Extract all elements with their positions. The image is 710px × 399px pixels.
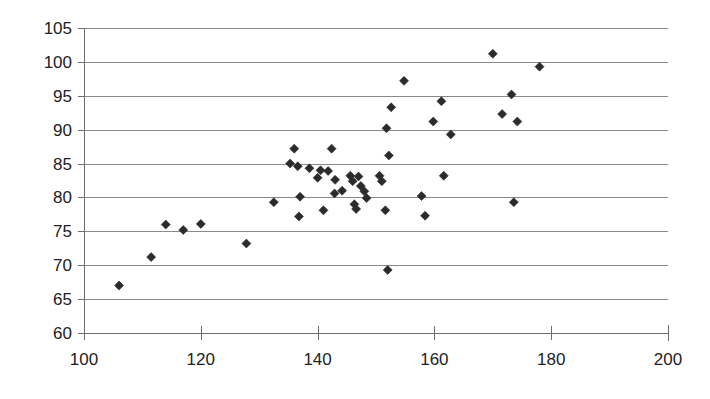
data-point-marker	[513, 117, 522, 126]
x-axis-tick-label: 140	[303, 350, 331, 369]
y-axis-tick-label: 65	[53, 290, 72, 309]
y-axis-tick-label: 90	[53, 121, 72, 140]
data-point-marker	[507, 90, 516, 99]
y-axis-tick-label: 75	[53, 222, 72, 241]
y-axis-tick-label: 105	[44, 19, 72, 38]
data-point-marker	[319, 206, 328, 215]
data-point-marker	[509, 198, 518, 207]
y-axis-tick-label: 100	[44, 53, 72, 72]
data-point-marker	[384, 151, 393, 160]
data-point-marker	[242, 239, 251, 248]
data-point-marker	[115, 281, 124, 290]
data-point-marker	[294, 212, 303, 221]
gridlines	[84, 29, 668, 334]
x-axis-tick-label: 100	[70, 350, 98, 369]
y-axis-tick-label: 80	[53, 188, 72, 207]
data-point-marker	[383, 265, 392, 274]
data-point-marker	[290, 144, 299, 153]
data-point-marker	[417, 192, 426, 201]
y-axis-tick-label: 70	[53, 256, 72, 275]
data-point-marker	[147, 253, 156, 262]
data-point-marker	[400, 76, 409, 85]
data-point-marker	[488, 49, 497, 58]
data-point-marker	[269, 198, 278, 207]
x-axis-tick-labels: 100120140160180200	[70, 350, 682, 369]
x-axis-tick-label: 160	[420, 350, 448, 369]
data-point-marker	[535, 62, 544, 71]
x-axis-tick-label: 120	[187, 350, 215, 369]
y-axis-tick-label: 95	[53, 87, 72, 106]
data-point-marker	[381, 206, 390, 215]
axis-lines	[84, 28, 669, 341]
data-point-marker	[382, 124, 391, 133]
data-point-marker	[331, 175, 340, 184]
scatter-chart: 6065707580859095100105 10012014016018020…	[0, 0, 710, 399]
data-point-marker	[498, 110, 507, 119]
data-point-marker	[196, 219, 205, 228]
chart-canvas: 6065707580859095100105 10012014016018020…	[0, 0, 710, 399]
y-axis-tick-label: 60	[53, 324, 72, 343]
data-point-marker	[437, 97, 446, 106]
y-axis-tick-label: 85	[53, 155, 72, 174]
data-points	[115, 49, 544, 290]
axis-ticks	[78, 29, 669, 341]
data-point-marker	[305, 164, 314, 173]
data-point-marker	[179, 225, 188, 234]
data-point-marker	[161, 220, 170, 229]
data-point-marker	[387, 103, 396, 112]
data-point-marker	[421, 211, 430, 220]
data-point-marker	[446, 130, 455, 139]
y-axis-tick-labels: 6065707580859095100105	[44, 19, 72, 343]
data-point-marker	[296, 192, 305, 201]
x-axis-tick-label: 180	[537, 350, 565, 369]
data-point-marker	[327, 144, 336, 153]
data-point-marker	[429, 117, 438, 126]
data-point-marker	[324, 167, 333, 176]
data-point-marker	[439, 171, 448, 180]
x-axis-tick-label: 200	[654, 350, 682, 369]
